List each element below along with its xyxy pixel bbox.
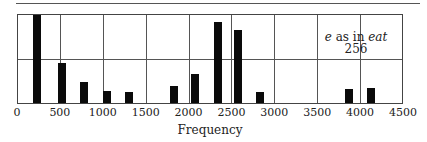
annotation-number: 256: [325, 43, 388, 55]
x-tick-label: 1000: [89, 106, 117, 119]
x-tick-label: 3500: [303, 106, 331, 119]
x-tick-label: 0: [14, 106, 21, 119]
vertical-gridline: [189, 15, 190, 103]
x-tick-label: 500: [49, 106, 70, 119]
spectrum-bar: [103, 91, 111, 103]
x-tick-label: 2500: [217, 106, 245, 119]
plot-area: [17, 14, 403, 104]
spectrum-bar: [234, 30, 242, 103]
x-axis-label: Frequency: [178, 123, 243, 137]
spectrum-bar: [256, 92, 264, 103]
x-tick-label: 1500: [132, 106, 160, 119]
x-tick-label: 2000: [175, 106, 203, 119]
spectrum-bar: [125, 92, 133, 103]
spectrum-bar: [345, 89, 353, 103]
spectrum-bar: [80, 82, 88, 103]
x-tick-label: 4500: [389, 106, 417, 119]
top-rule: [16, 3, 420, 4]
chart-annotation: e as in eat 256: [325, 31, 388, 55]
midline-gridline: [18, 59, 402, 60]
spectrum-bar: [214, 22, 222, 103]
x-tick-label: 4000: [346, 106, 374, 119]
vertical-gridline: [317, 15, 318, 103]
spectrum-bar: [33, 15, 41, 103]
spectrum-bar: [191, 74, 199, 103]
annotation-word: eat: [368, 30, 387, 44]
spectrum-bar: [58, 63, 66, 103]
spectrum-bar: [367, 88, 375, 103]
vertical-gridline: [231, 15, 232, 103]
vertical-gridline: [360, 15, 361, 103]
x-tick-label: 3000: [260, 106, 288, 119]
vertical-gridline: [274, 15, 275, 103]
vertical-gridline: [103, 15, 104, 103]
vertical-gridline: [146, 15, 147, 103]
spectrum-bar: [170, 86, 178, 103]
